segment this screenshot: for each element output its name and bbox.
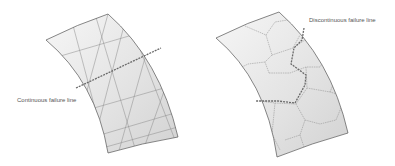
right-shell-panel [216, 12, 348, 157]
continuous-failure-line-label: Continuous failure line [17, 97, 76, 103]
discontinuous-failure-line-label: Discontinuous failure line [309, 17, 376, 23]
diagram-canvas [0, 0, 395, 166]
left-shell-panel [40, 10, 185, 165]
